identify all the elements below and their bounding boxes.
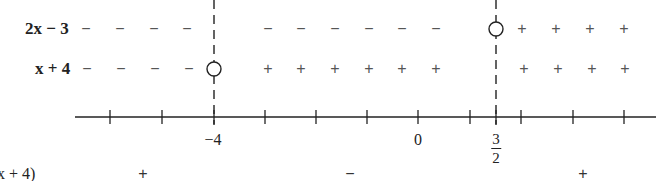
- minus-sign: −: [184, 61, 193, 77]
- open-circle-icon: [489, 22, 503, 36]
- plus-sign: +: [620, 61, 629, 77]
- minus-sign: −: [149, 21, 158, 37]
- plus-sign: +: [619, 21, 628, 37]
- plus-sign: +: [397, 61, 406, 77]
- plus-sign: +: [553, 61, 562, 77]
- minus-sign: −: [81, 21, 90, 37]
- open-circle-icon: [207, 62, 221, 76]
- plus-sign: +: [587, 61, 596, 77]
- minus-sign: −: [431, 21, 440, 37]
- plus-sign: +: [517, 21, 526, 37]
- minus-sign: −: [364, 21, 373, 37]
- minus-sign: −: [330, 21, 339, 37]
- plus-sign: +: [585, 21, 594, 37]
- plus-sign: +: [364, 61, 373, 77]
- axis-label-minus-four: −4: [204, 132, 221, 148]
- minus-sign: −: [150, 61, 159, 77]
- minus-sign: −: [263, 21, 272, 37]
- factor-label: x + 4: [35, 60, 70, 77]
- minus-sign: −: [116, 61, 125, 77]
- plus-sign: +: [431, 61, 440, 77]
- minus-sign: −: [82, 61, 91, 77]
- product-plus-sign: +: [138, 166, 147, 181]
- product-label: (2x − 3)(x + 4): [0, 166, 35, 181]
- fraction-denominator: 2: [491, 149, 501, 166]
- product-minus-sign: −: [345, 166, 354, 181]
- minus-sign: −: [296, 21, 305, 37]
- minus-sign: −: [115, 21, 124, 37]
- plus-sign: +: [263, 61, 272, 77]
- axis-label-zero: 0: [414, 132, 422, 148]
- plus-sign: +: [551, 21, 560, 37]
- axis-label-three-halves: 32: [491, 132, 501, 166]
- plus-sign: +: [330, 61, 339, 77]
- factor-label: 2x − 3: [25, 20, 69, 37]
- product-plus-sign: +: [578, 166, 587, 181]
- minus-sign: −: [397, 21, 406, 37]
- plus-sign: +: [519, 61, 528, 77]
- minus-sign: −: [182, 21, 191, 37]
- plus-sign: +: [296, 61, 305, 77]
- fraction-numerator: 3: [491, 132, 501, 149]
